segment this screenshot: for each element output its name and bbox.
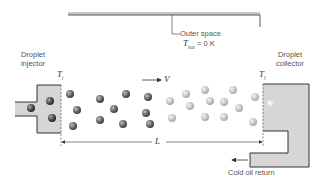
velocity-label: V [164, 75, 170, 84]
collector-label-line2: collector [265, 59, 315, 68]
injector-label-line1: Droplet [8, 50, 58, 59]
outer-space-boundary [68, 12, 260, 34]
outer-space-label: Outer space [180, 29, 221, 38]
diagram-graphics [0, 0, 325, 191]
length-label: L [155, 137, 160, 146]
injector-label-line2: injector [8, 59, 58, 68]
t-f-label: Tf [259, 70, 265, 83]
t-sur-label: Tsur = 0 K [183, 39, 215, 52]
droplet-radiator-diagram: Droplet injector Droplet collector Outer… [0, 0, 325, 191]
t-f-subscript: f [264, 75, 265, 81]
cold-oil-return-label: Cold oil return [228, 168, 275, 177]
outer-space-text: Outer space [180, 29, 221, 38]
droplets-collector [267, 100, 275, 108]
t-i-label: Ti [57, 70, 63, 83]
collector-label-line1: Droplet [265, 50, 315, 59]
droplets-cool [166, 86, 259, 126]
t-sur-subscript: sur [188, 44, 195, 50]
injector-label: Droplet injector [8, 50, 58, 68]
t-sur-value: = 0 K [197, 39, 215, 48]
collector-label: Droplet collector [265, 50, 315, 68]
droplets-hot [66, 90, 154, 130]
t-i-subscript: i [62, 75, 63, 81]
